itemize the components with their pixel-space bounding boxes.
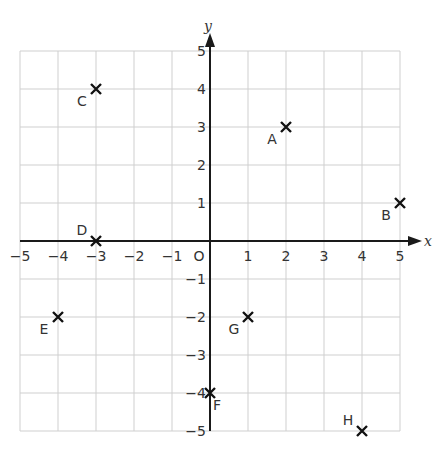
x-tick-label: 2 xyxy=(282,248,291,264)
y-tick-label: 2 xyxy=(197,157,206,173)
point-label: C xyxy=(77,93,87,109)
y-tick-label: −4 xyxy=(185,385,206,401)
point-label: B xyxy=(381,207,391,223)
x-tick-label: 1 xyxy=(244,248,253,264)
y-tick-label: 1 xyxy=(197,195,206,211)
y-tick-label: 3 xyxy=(197,119,206,135)
coordinate-plane: xy −5−4−3−2−11234554321−1−2−3−4−5O ABCDE… xyxy=(0,0,440,450)
y-axis-label: y xyxy=(203,18,213,34)
x-tick-label: −4 xyxy=(48,248,69,264)
x-axis-arrow-icon xyxy=(408,236,422,246)
y-axis-arrow-icon xyxy=(205,33,215,47)
point-label: A xyxy=(267,131,277,147)
point-label: H xyxy=(343,412,354,428)
point-c: C xyxy=(77,84,101,109)
x-tick-label: 4 xyxy=(358,248,367,264)
point-f: F xyxy=(205,388,221,413)
y-tick-label: 4 xyxy=(197,81,206,97)
point-a: A xyxy=(267,122,291,147)
y-tick-label: −1 xyxy=(185,271,206,287)
y-tick-label: −5 xyxy=(185,423,206,439)
point-label: D xyxy=(77,222,88,238)
x-tick-label: −3 xyxy=(86,248,107,264)
point-label: G xyxy=(229,321,240,337)
point-g: G xyxy=(229,312,253,337)
x-tick-label: −1 xyxy=(162,248,183,264)
x-tick-label: −5 xyxy=(10,248,31,264)
y-tick-label: −3 xyxy=(185,347,206,363)
point-label: F xyxy=(213,397,221,413)
x-axis-label: x xyxy=(424,233,432,249)
point-label: E xyxy=(40,321,49,337)
y-tick-label: −2 xyxy=(185,309,206,325)
point-e: E xyxy=(40,312,63,337)
plot-svg: xy −5−4−3−2−11234554321−1−2−3−4−5O ABCDE… xyxy=(0,0,440,450)
point-h: H xyxy=(343,412,367,436)
point-b: B xyxy=(381,198,405,223)
origin-label: O xyxy=(193,248,204,264)
x-tick-label: 5 xyxy=(396,248,405,264)
x-tick-label: 3 xyxy=(320,248,329,264)
y-tick-label: 5 xyxy=(197,43,206,59)
x-tick-label: −2 xyxy=(124,248,145,264)
point-d: D xyxy=(77,222,101,246)
